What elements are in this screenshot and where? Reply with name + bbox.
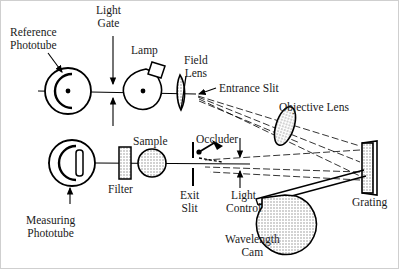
optical-diagram-figure: Reference Phototube Light Gate Lamp Fiel… xyxy=(0,0,400,270)
label-sample: Sample xyxy=(133,135,168,148)
label-field-lens: Field Lens xyxy=(184,54,208,79)
label-occluder: Occluder xyxy=(196,133,238,146)
grating-symbol xyxy=(362,141,377,195)
label-objective-lens: Objective Lens xyxy=(279,101,349,114)
label-reference-phototube: Reference Phototube xyxy=(10,26,57,51)
reference-phototube-pointer xyxy=(48,53,62,72)
label-lamp: Lamp xyxy=(131,44,158,57)
label-grating: Grating xyxy=(352,196,387,209)
measuring-phototube-symbol xyxy=(49,140,95,186)
label-light-control: Light Control xyxy=(226,189,261,214)
label-wavelength-cam: Wavelength Cam xyxy=(225,233,280,258)
reference-phototube-symbol xyxy=(45,68,91,114)
sample-symbol xyxy=(138,149,166,177)
label-exit-slit: Exit Slit xyxy=(180,189,199,214)
label-entrance-slit: Entrance Slit xyxy=(219,82,279,95)
lamp-symbol xyxy=(123,62,165,109)
label-light-gate: Light Gate xyxy=(96,4,121,29)
label-filter: Filter xyxy=(108,183,133,196)
filter-symbol xyxy=(119,147,131,179)
entrance-slit-pointer xyxy=(199,88,216,94)
field-lens-symbol xyxy=(177,75,186,110)
label-measuring-phototube: Measuring Phototube xyxy=(26,214,75,239)
